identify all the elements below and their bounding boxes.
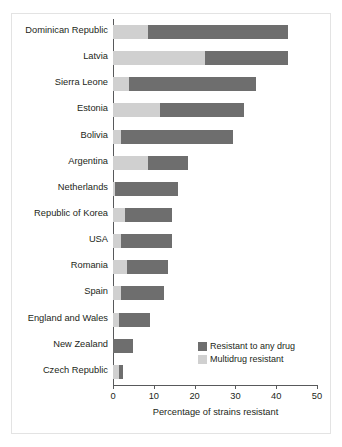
chart-row: Romania (113, 254, 317, 280)
axis-tick-label: 0 (110, 391, 115, 401)
bar-segment-resistant-any-drug (121, 130, 233, 144)
chart-row: Estonia (113, 97, 317, 123)
bar-segment-multidrug-resistant (113, 51, 205, 65)
chart-row: Republic of Korea (113, 202, 317, 228)
stacked-bar (113, 51, 288, 65)
axis-tick-label: 40 (271, 391, 281, 401)
chart-row: Dominican Republic (113, 19, 317, 45)
bar-segment-multidrug-resistant (113, 234, 121, 248)
category-label: England and Wales (28, 311, 108, 325)
stacked-bar (113, 260, 168, 274)
bar-segment-resistant-any-drug (127, 260, 168, 274)
category-label: Bolivia (81, 128, 108, 142)
bar-segment-resistant-any-drug (115, 182, 178, 196)
chart-figure: Dominican RepublicLatviaSierra LeoneEsto… (0, 0, 342, 447)
bar-segment-multidrug-resistant (113, 77, 129, 91)
chart-row: Spain (113, 280, 317, 306)
bar-segment-multidrug-resistant (113, 156, 148, 170)
axis-tick-label: 30 (230, 391, 240, 401)
bar-segment-multidrug-resistant (113, 260, 127, 274)
category-label: Latvia (83, 49, 108, 63)
bar-segment-resistant-any-drug (125, 208, 172, 222)
axis-tick (113, 385, 114, 389)
legend-entry: Resistant to any drug (198, 340, 295, 352)
axis-tick-label: 50 (312, 391, 322, 401)
bar-segment-resistant-any-drug (160, 103, 244, 117)
legend-swatch-icon (198, 355, 207, 364)
stacked-bar (113, 234, 172, 248)
axis-tick (276, 385, 277, 389)
legend-swatch-icon (198, 342, 207, 351)
category-label: Spain (84, 284, 108, 298)
bar-segment-resistant-any-drug (148, 25, 289, 39)
stacked-bar (113, 208, 172, 222)
value-axis-line (113, 385, 318, 386)
axis-tick-label: 10 (149, 391, 159, 401)
chart-row: USA (113, 228, 317, 254)
chart-row: Argentina (113, 150, 317, 176)
bar-segment-resistant-any-drug (121, 286, 164, 300)
stacked-bar (113, 313, 150, 327)
category-label: Romania (71, 258, 108, 272)
axis-tick (317, 385, 318, 389)
category-label: Republic of Korea (34, 206, 108, 220)
chart-row: Latvia (113, 45, 317, 71)
bar-segment-resistant-any-drug (121, 234, 172, 248)
stacked-bar (113, 130, 233, 144)
axis-tick-label: 20 (189, 391, 199, 401)
bar-segment-resistant-any-drug (119, 313, 150, 327)
bar-segment-resistant-any-drug (119, 365, 123, 379)
bar-segment-multidrug-resistant (113, 130, 121, 144)
category-label: USA (89, 232, 108, 246)
stacked-bar (113, 156, 188, 170)
bar-segment-resistant-any-drug (148, 156, 189, 170)
legend-label: Multidrug resistant (210, 353, 284, 365)
chart-row: England and Wales (113, 307, 317, 333)
category-label: Estonia (77, 101, 108, 115)
category-label: Sierra Leone (55, 75, 108, 89)
stacked-bar (113, 286, 164, 300)
bar-segment-resistant-any-drug (113, 339, 133, 353)
axis-tick (195, 385, 196, 389)
bar-segment-multidrug-resistant (113, 208, 125, 222)
chart-row: Bolivia (113, 124, 317, 150)
plot-area: Dominican RepublicLatviaSierra LeoneEsto… (113, 19, 317, 385)
bar-segment-multidrug-resistant (113, 103, 160, 117)
stacked-bar (113, 182, 178, 196)
chart-legend: Resistant to any drugMultidrug resistant (198, 340, 295, 366)
stacked-bar (113, 77, 256, 91)
stacked-bar (113, 103, 244, 117)
bar-segment-multidrug-resistant (113, 286, 121, 300)
legend-label: Resistant to any drug (210, 340, 295, 352)
category-label: Czech Republic (43, 363, 108, 377)
axis-tick (154, 385, 155, 389)
axis-tick (235, 385, 236, 389)
category-label: Netherlands (58, 180, 108, 194)
bar-segment-resistant-any-drug (205, 51, 289, 65)
stacked-bar (113, 339, 133, 353)
bar-segment-resistant-any-drug (129, 77, 255, 91)
legend-entry: Multidrug resistant (198, 353, 295, 365)
stacked-bar (113, 25, 288, 39)
chart-row: Sierra Leone (113, 71, 317, 97)
category-label: New Zealand (53, 337, 108, 351)
category-label: Dominican Republic (25, 23, 108, 37)
chart-row: Netherlands (113, 176, 317, 202)
stacked-bar (113, 365, 123, 379)
category-label: Argentina (68, 154, 108, 168)
x-axis-title: Percentage of strains resistant (113, 407, 318, 417)
bar-segment-multidrug-resistant (113, 25, 148, 39)
